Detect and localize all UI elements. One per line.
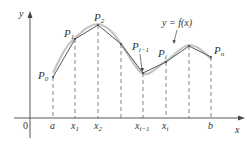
label-pi: Pi (157, 47, 167, 61)
curve-pointer-arrow-icon (173, 40, 176, 44)
tick-xi-1: xi−1 (134, 120, 150, 133)
curve-label: y = f(x) (161, 17, 193, 29)
tick-b: b (208, 120, 213, 131)
label-pn: Pn (213, 44, 225, 58)
tick-a: a (50, 120, 55, 131)
pi-1-pointer (140, 54, 142, 70)
x-axis-arrow-icon (238, 116, 245, 121)
label-pi-1: Pi−1 (131, 40, 149, 54)
tick-xi: xi (161, 120, 168, 133)
y-axis-label: y (18, 8, 24, 19)
label-p0: P0 (37, 69, 49, 83)
polygonal-approximation-diagram: y x 0 a x1 x2 xi−1 xi b P0 P1 P2 Pi−1 Pi… (0, 0, 252, 141)
y-axis-arrow-icon (28, 11, 33, 18)
diagram-canvas: y x 0 a x1 x2 xi−1 xi b P0 P1 P2 Pi−1 Pi… (0, 0, 252, 141)
origin-label: 0 (23, 120, 28, 131)
x-axis-label: x (234, 124, 240, 135)
vertical-dashes (53, 25, 211, 118)
curve-label-pointer (174, 30, 177, 42)
label-p2: P2 (93, 11, 105, 25)
tick-x1: x1 (70, 120, 79, 133)
tick-x2: x2 (93, 120, 102, 133)
label-p1: P1 (63, 27, 74, 41)
